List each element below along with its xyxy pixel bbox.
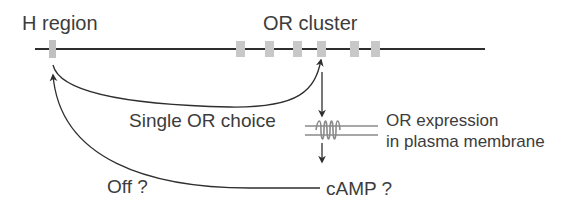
- or-gene-box: [265, 41, 274, 57]
- plasma-membrane-icon: [305, 121, 378, 139]
- or-gene-box-selected: [317, 41, 326, 57]
- or-cluster-label: OR cluster: [263, 13, 357, 33]
- h-region-label: H region: [22, 13, 98, 33]
- single-choice-arrow: [53, 60, 321, 107]
- or-gene-box: [236, 41, 245, 57]
- camp-label: cAMP ?: [326, 179, 392, 198]
- or-gene-box: [350, 41, 359, 57]
- or-gene-box: [371, 41, 380, 57]
- h-region-box: [49, 40, 56, 58]
- or-expression-label-line2: in plasma membrane: [386, 133, 545, 150]
- single-or-choice-label: Single OR choice: [129, 111, 276, 130]
- or-gene-box: [293, 41, 302, 57]
- receptor-coil-icon: [316, 121, 340, 139]
- off-label: Off ?: [107, 177, 148, 196]
- or-expression-label-line1: OR expression: [386, 112, 498, 129]
